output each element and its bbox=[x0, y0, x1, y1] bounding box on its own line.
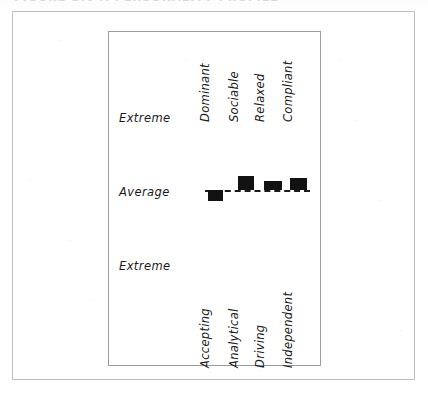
bar-sociable bbox=[238, 176, 254, 190]
scan-speckle bbox=[30, 180, 31, 181]
bar-compliant bbox=[290, 178, 307, 190]
scan-edge-artifact: FIGURE 3.6 A PERSONALITY PROFILE bbox=[0, 0, 428, 7]
scan-speckle bbox=[150, 25, 151, 26]
bar-relaxed bbox=[264, 181, 282, 190]
scan-speckle bbox=[340, 60, 341, 61]
scan-speckle bbox=[400, 330, 401, 331]
scan-speckle bbox=[70, 240, 71, 241]
scan-speckle bbox=[260, 370, 261, 371]
scan-speckle bbox=[60, 40, 61, 41]
scan-speckle bbox=[90, 300, 91, 301]
scan-speckle bbox=[200, 350, 201, 351]
top-pole-label-dominant: Dominant bbox=[198, 63, 212, 122]
scan-speckle bbox=[380, 200, 381, 201]
bottom-pole-label-independent: Independent bbox=[281, 292, 295, 368]
top-pole-label-relaxed: Relaxed bbox=[253, 73, 267, 122]
bottom-pole-label-accepting: Accepting bbox=[198, 308, 212, 368]
cut-off-caption-text: FIGURE 3.6 A PERSONALITY PROFILE bbox=[14, 0, 279, 4]
bottom-pole-label-analytical: Analytical bbox=[227, 309, 241, 368]
top-pole-label-sociable: Sociable bbox=[227, 71, 241, 122]
scan-speckle bbox=[355, 120, 356, 121]
bar-dominant bbox=[208, 190, 223, 201]
scan-speckle bbox=[185, 60, 186, 61]
bottom-pole-label-driving: Driving bbox=[253, 325, 267, 368]
top-pole-label-compliant: Compliant bbox=[281, 60, 295, 122]
